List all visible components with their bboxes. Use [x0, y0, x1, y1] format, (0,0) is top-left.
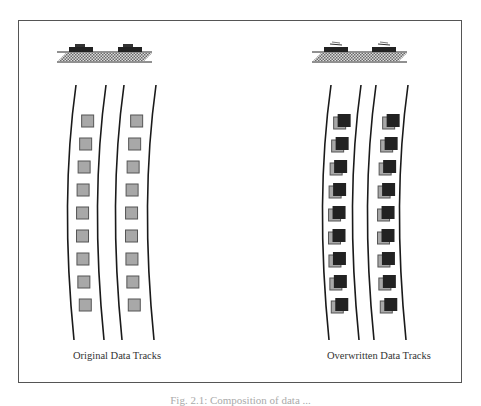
bit-cell — [82, 115, 94, 127]
bit-cell — [80, 138, 92, 150]
bit-cell — [78, 276, 90, 288]
figure-caption: Fig. 2.1: Composition of data ... — [0, 394, 481, 406]
bit-cell — [126, 184, 138, 196]
overwrite-bit-cell — [382, 183, 395, 196]
bit-cell — [126, 230, 138, 242]
overwrite-bit-cell — [384, 298, 397, 311]
overwrite-bit-cell — [333, 229, 346, 242]
bit-cell — [131, 115, 143, 127]
bit-cell — [77, 253, 89, 265]
overwrite-bit-cell — [383, 275, 396, 288]
overwritten-panel — [312, 42, 408, 340]
bit-cell — [79, 299, 91, 311]
bit-cell — [126, 253, 138, 265]
overwritten-tracks-label: Overwritten Data Tracks — [327, 350, 431, 361]
overwrite-bit-cell — [334, 275, 347, 288]
bit-cell — [78, 161, 90, 173]
overwrite-bit-cell — [383, 160, 396, 173]
bit-cell — [77, 230, 89, 242]
bit-cell — [127, 161, 139, 173]
overwrite-bit-cell — [382, 252, 395, 265]
overwrite-bit-cell — [336, 137, 349, 150]
overwrite-bit-cell — [338, 114, 351, 127]
bit-cell — [77, 184, 89, 196]
overwrite-bit-cell — [382, 206, 395, 219]
original-tracks-label: Original Data Tracks — [73, 350, 161, 361]
overwrite-bit-cell — [334, 160, 347, 173]
original-bits — [77, 115, 143, 311]
overwrite-bit-cell — [385, 137, 398, 150]
head-assembly-icon — [57, 44, 152, 62]
original-panel — [57, 44, 156, 340]
overwrite-bit-cell — [382, 229, 395, 242]
bit-cell — [129, 138, 141, 150]
head-assembly-icon — [312, 42, 407, 62]
bit-cell — [128, 299, 140, 311]
bit-cell — [127, 276, 139, 288]
overwritten-bits — [329, 114, 400, 313]
bit-cell — [77, 207, 89, 219]
overwrite-bit-cell — [387, 114, 400, 127]
overwrite-bit-cell — [333, 183, 346, 196]
overwrite-bit-cell — [335, 298, 348, 311]
overwrite-bit-cell — [333, 206, 346, 219]
overwrite-bit-cell — [333, 252, 346, 265]
bit-cell — [126, 207, 138, 219]
